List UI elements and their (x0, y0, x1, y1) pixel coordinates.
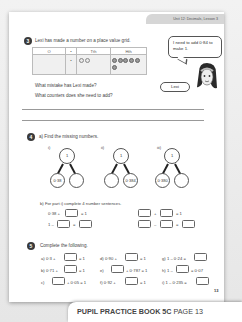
sentence-4-minus: – (154, 222, 156, 227)
q5e-suffix: + 0·787 = 1 (126, 268, 147, 273)
answer-box[interactable] (194, 253, 207, 261)
grid-cell-point: • (66, 55, 77, 75)
q5c-prefix: c) (41, 280, 45, 285)
grid-cell-ones (33, 55, 66, 75)
model-iii-part-left: 0·380 (155, 173, 170, 188)
grid-header-tenths: Tth (77, 48, 111, 55)
unit-label: Unit 12: Decimals, Lesson 3 (146, 14, 224, 24)
model-ii-whole: 1 (113, 148, 129, 164)
counter-hundredth (112, 65, 117, 70)
answer-box[interactable] (138, 220, 151, 228)
answer-box[interactable] (176, 265, 189, 273)
counter-hundredth (118, 58, 123, 63)
answer-box[interactable] (111, 265, 124, 273)
answer-line[interactable] (22, 120, 204, 121)
answer-box[interactable] (57, 220, 70, 228)
place-value-grid: O • Tth Hth • (32, 47, 147, 75)
page-number: 13 (214, 288, 218, 293)
counter-hundredth (129, 58, 134, 63)
model-iii-part-right[interactable] (174, 173, 189, 188)
footer-page: PAGE 13 (174, 307, 203, 316)
q4-part-a-prompt: a) Find the missing numbers. (39, 134, 98, 139)
model-iii-whole: 1 (164, 148, 180, 164)
q5h-prefix: h) 1 – (162, 268, 173, 273)
answer-box[interactable] (182, 220, 195, 228)
answer-box[interactable] (160, 209, 173, 217)
answer-box[interactable] (64, 265, 77, 273)
grid-header-point: • (66, 48, 77, 55)
sentence-3-plus: + (154, 211, 156, 216)
answer-box[interactable] (64, 253, 77, 261)
q5a-prefix: a) 0·3 + (41, 256, 56, 261)
q5a-suffix: = 1 (79, 256, 85, 261)
q3-prompt: Lexi has made a number on a place value … (35, 38, 131, 43)
grid-header-hundredths: Hth (111, 48, 147, 55)
footer-book-title: PUPIL PRACTICE BOOK 5C (77, 307, 172, 316)
scan-stage: Unit 12: Decimals, Lesson 3 3 Lexi has m… (0, 0, 242, 322)
q5d-prefix: d) 0·90 + (100, 256, 117, 261)
answer-box[interactable] (125, 277, 138, 285)
q5b-prefix: b) 0·71 + (41, 268, 58, 273)
sentence-3-eq: = 1 (176, 211, 182, 216)
q5d-suffix: = 1 (140, 256, 146, 261)
model-i-part-right[interactable] (69, 173, 84, 188)
grid-header-ones: O (33, 48, 66, 55)
grid-cell-hundredths (111, 55, 147, 75)
sentence-2-lhs: 1 – (48, 222, 54, 227)
counter-hundredth (135, 58, 140, 63)
question-4-badge: 4 (27, 133, 35, 141)
model-i-whole: 1 (59, 148, 75, 164)
q5f-prefix: f) 0·92 + (100, 280, 116, 285)
model-ii-part-right: 0·384 (123, 173, 138, 188)
sentence-1-eq: = 1 (81, 211, 87, 216)
sentence-2-eq: = (73, 222, 75, 227)
q5-prompt: Complete the following. (40, 243, 88, 248)
q3-question-mistake: What mistake has Lexi made? (35, 83, 97, 88)
answer-box[interactable] (65, 209, 78, 217)
footer-label: PUPIL PRACTICE BOOK 5C PAGE 13 (77, 307, 203, 316)
answer-box[interactable] (52, 277, 65, 285)
answer-line[interactable] (22, 109, 204, 110)
counter-hundredth (123, 58, 128, 63)
q5b-suffix: = 1 (79, 268, 85, 273)
sentence-1-lhs: 0·38 + (48, 211, 60, 216)
answer-box[interactable] (160, 220, 173, 228)
q3-question-counters: What counters does she need to add? (35, 93, 113, 98)
q5i-prefix: i) 1 – 0·235 = (162, 280, 187, 285)
q4-part-b-prompt: b) For part i) complete 4 number sentenc… (40, 201, 121, 206)
answer-box[interactable] (79, 220, 92, 228)
q5h-suffix: = 0·07 (191, 268, 203, 273)
q5f-suffix: = 1 (140, 280, 146, 285)
q5c-suffix: + 0·05 = 1 (67, 280, 86, 285)
model-i-label: i) (48, 145, 50, 150)
model-ii-label: ii) (101, 145, 104, 150)
counter-hundredth (112, 58, 117, 63)
speech-bubble: I need to add 0·84 to make 1. (168, 36, 222, 58)
q5g-prefix: g) 1 – 0·24 = (162, 256, 186, 261)
counter-tenth (85, 58, 90, 63)
lexi-character-icon (196, 62, 218, 90)
answer-box[interactable] (196, 277, 209, 285)
speech-text: I need to add 0·84 to make 1. (173, 40, 213, 51)
model-ii-part-left[interactable] (104, 173, 119, 188)
sentence-4-eq: = (176, 222, 178, 227)
model-iii-label: iii) (157, 145, 161, 150)
answer-box[interactable] (138, 209, 151, 217)
q5e-prefix: e) (100, 268, 104, 273)
grid-cell-tenths (77, 55, 111, 75)
answer-box[interactable] (125, 253, 138, 261)
question-3-badge: 3 (24, 37, 32, 45)
character-name-tag: Lexi (160, 82, 190, 92)
counter-tenth (79, 58, 84, 63)
model-i-part-left: 0·38 (50, 173, 65, 188)
question-5-badge: 5 (27, 242, 35, 250)
